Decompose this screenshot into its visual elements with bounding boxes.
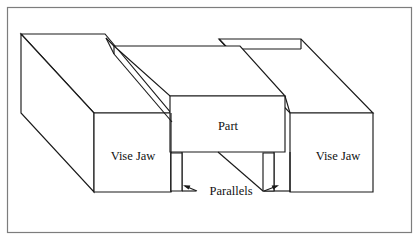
left-parallel <box>171 153 182 191</box>
label-parallels: Parallels <box>209 184 252 198</box>
right-parallel <box>263 153 274 191</box>
parallels-arrowhead-left-icon <box>183 185 190 189</box>
label-part: Part <box>218 119 239 133</box>
left-parallel-face <box>171 153 182 191</box>
right-parallel-face <box>263 153 274 191</box>
vise-setup-figure: Vise Jaw Part Vise Jaw Parallels <box>0 0 419 241</box>
label-vise-jaw-left: Vise Jaw <box>111 149 156 163</box>
vise-setup-diagram: Vise Jaw Part Vise Jaw Parallels <box>0 0 419 241</box>
label-vise-jaw-right: Vise Jaw <box>316 149 361 163</box>
